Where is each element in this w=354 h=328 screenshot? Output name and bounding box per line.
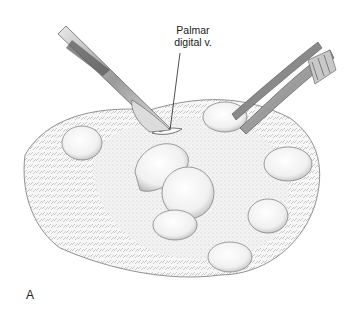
annotation-line-2: digital v. — [163, 36, 223, 48]
annotation-line-1: Palmar — [163, 24, 223, 36]
paw-illustration — [0, 0, 354, 328]
annotation-palmar-digital-vein: Palmar digital v. — [163, 24, 223, 48]
pad-digit-3 — [264, 147, 312, 181]
pad-digit-5 — [208, 242, 252, 272]
panel-letter: A — [26, 288, 34, 302]
pad-digit-4 — [248, 199, 288, 233]
pad-digit-1 — [62, 126, 102, 160]
